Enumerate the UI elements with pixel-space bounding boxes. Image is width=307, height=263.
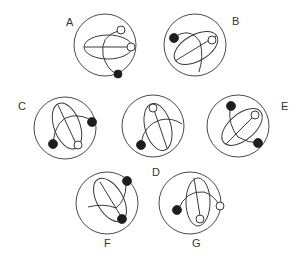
filled-dot <box>114 70 122 78</box>
figure-e: E <box>207 95 288 157</box>
label-d: D <box>152 166 160 178</box>
filled-dot <box>227 102 236 111</box>
filled-dot <box>254 139 263 148</box>
open-dot <box>196 215 204 223</box>
filled-dot <box>173 206 182 215</box>
figure-b: B <box>164 14 239 76</box>
filled-dot <box>170 34 179 43</box>
figure-f: F <box>76 172 138 249</box>
axis-line <box>153 107 167 148</box>
label-a: A <box>66 16 74 28</box>
curve-path <box>103 31 118 74</box>
figure-c: C <box>18 97 97 159</box>
open-dot <box>74 141 82 149</box>
filled-dot <box>88 118 97 127</box>
open-dot <box>251 111 259 119</box>
label-c: C <box>18 100 26 112</box>
filled-dot <box>123 177 132 186</box>
open-dot <box>208 36 216 44</box>
filled-dot <box>137 141 146 150</box>
puzzle-diagram: A B C D E <box>0 0 307 263</box>
figure-d: D <box>122 95 184 178</box>
label-g: G <box>192 237 201 249</box>
open-dot <box>117 26 125 34</box>
outer-circle <box>34 97 96 159</box>
filled-dot <box>118 215 127 224</box>
label-e: E <box>281 100 288 112</box>
figure-a: A <box>66 14 136 78</box>
filled-dot <box>49 140 58 149</box>
figure-g: G <box>159 172 224 249</box>
label-f: F <box>104 237 111 249</box>
outer-circle <box>159 172 221 234</box>
open-dot <box>127 43 135 51</box>
open-dot <box>149 104 157 112</box>
outer-circle <box>74 14 136 76</box>
open-dot <box>216 202 224 210</box>
label-b: B <box>232 15 239 27</box>
